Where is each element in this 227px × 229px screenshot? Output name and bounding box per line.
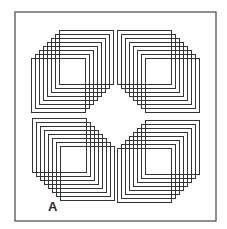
square-group-bottom-right	[118, 121, 200, 203]
square-group-bottom-left	[33, 119, 115, 201]
square-group-top-right	[118, 31, 200, 113]
figure-label: A	[48, 200, 57, 213]
square-group-top-left	[32, 31, 114, 113]
op-art-squares-diagram	[0, 0, 227, 229]
outer-frame	[15, 12, 216, 221]
